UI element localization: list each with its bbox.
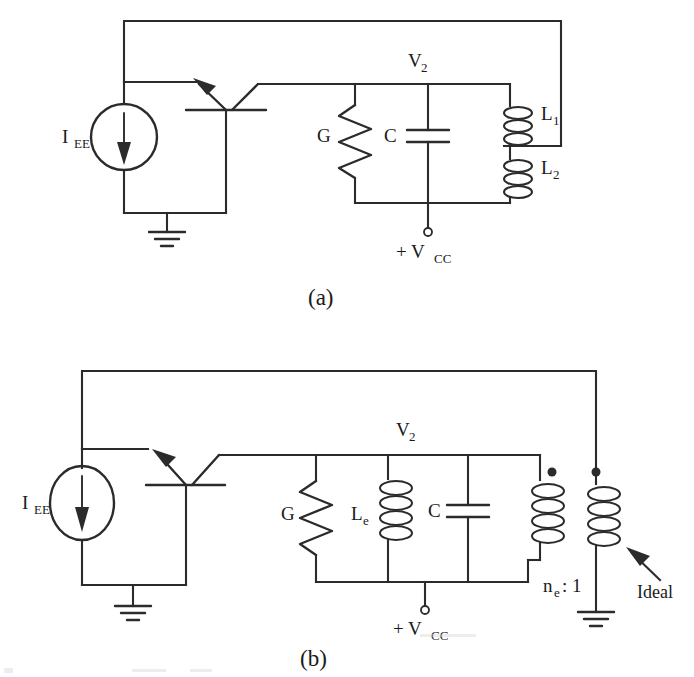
turns-ratio-label-b: n bbox=[543, 575, 553, 596]
node-voltage-label-a: V bbox=[408, 50, 422, 71]
supply-label-b: + V bbox=[393, 618, 422, 639]
panel-a-schematic: I EE V bbox=[0, 0, 694, 340]
capacitor-c-b bbox=[447, 455, 489, 582]
current-source-b bbox=[50, 449, 114, 585]
resistor-g-label-b: G bbox=[281, 503, 295, 524]
ground-symbol-secondary-b bbox=[578, 612, 614, 626]
emitter-ground-rail-a bbox=[124, 213, 226, 232]
ground-symbol-a bbox=[149, 232, 185, 246]
supply-label-a: + V bbox=[396, 241, 425, 262]
inductor-l2-a bbox=[504, 146, 532, 203]
figure-root: I EE V bbox=[0, 0, 694, 677]
inductor-l1-sublabel-a: 1 bbox=[553, 113, 560, 128]
scan-artifact bbox=[132, 669, 166, 672]
inductor-le-b bbox=[380, 455, 412, 582]
capacitor-c-label-b: C bbox=[428, 500, 441, 521]
capacitor-c-a bbox=[407, 84, 449, 203]
ground-symbol-b bbox=[115, 606, 151, 620]
feedback-loop-wire-b bbox=[82, 371, 596, 482]
resistor-g-b bbox=[300, 455, 332, 582]
supply-sublabel-a: CC bbox=[434, 251, 451, 266]
ideal-label-b: Ideal bbox=[637, 582, 673, 602]
panel-b-schematic: I EE V 2 bbox=[0, 340, 694, 677]
turns-ratio-rest-b: : 1 bbox=[562, 575, 582, 596]
inductor-l2-sublabel-a: 2 bbox=[553, 167, 560, 182]
supply-terminal-b bbox=[421, 606, 429, 614]
scan-artifact bbox=[4, 668, 13, 673]
inductor-l2-label-a: L bbox=[541, 157, 553, 178]
current-source-label-a: I bbox=[62, 126, 68, 147]
current-source-sublabel-b: EE bbox=[34, 502, 50, 517]
inductor-le-label-b: L bbox=[351, 503, 363, 524]
turns-ratio-sublabel-b: e bbox=[554, 585, 560, 600]
polarity-dot-primary bbox=[548, 468, 557, 477]
capacitor-c-label-a: C bbox=[384, 125, 397, 146]
current-source-sublabel-a: EE bbox=[74, 136, 90, 151]
tank-bottom-rail-a bbox=[355, 203, 510, 228]
node-voltage-sublabel-b: 2 bbox=[409, 429, 416, 444]
node-voltage-label-b: V bbox=[396, 419, 410, 440]
ideal-arrow-icon-b bbox=[626, 547, 660, 580]
panel-a-caption: (a) bbox=[308, 285, 334, 310]
resistor-g-a bbox=[339, 84, 371, 203]
inductor-l1-label-a: L bbox=[541, 103, 553, 124]
panel-b-caption: (b) bbox=[300, 646, 327, 671]
current-source-label-b: I bbox=[22, 492, 28, 513]
polarity-dot-secondary bbox=[592, 468, 601, 477]
scan-artifact bbox=[190, 669, 212, 672]
emitter-ground-rail-b bbox=[82, 585, 186, 606]
tank-bottom-rail-b bbox=[316, 582, 528, 606]
node-voltage-sublabel-a: 2 bbox=[421, 60, 428, 75]
npn-transistor-a bbox=[186, 78, 336, 213]
current-source-a bbox=[91, 82, 157, 213]
supply-terminal-a bbox=[424, 228, 432, 236]
transformer-secondary-b bbox=[588, 468, 620, 613]
transformer-primary-b bbox=[528, 455, 564, 582]
inductor-le-sublabel-b: e bbox=[363, 513, 369, 528]
scan-artifact bbox=[420, 634, 476, 637]
resistor-g-label-a: G bbox=[317, 125, 331, 146]
